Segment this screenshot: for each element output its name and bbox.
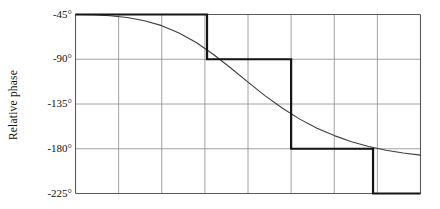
grid-lines: [76, 15, 421, 194]
phase-response-chart: Relative phase -45° -90° -135° -180° -22…: [0, 0, 440, 209]
plot-area: [0, 0, 440, 209]
